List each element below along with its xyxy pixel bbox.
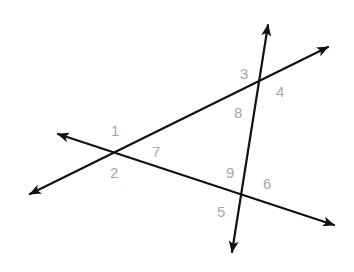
angle-diagram: 127348965 — [0, 0, 354, 272]
angle-label-1: 1 — [111, 122, 119, 139]
angle-label-5: 5 — [217, 203, 225, 220]
angle-label-2: 2 — [110, 164, 118, 181]
angle-label-8: 8 — [234, 104, 242, 121]
angle-label-4: 4 — [276, 83, 284, 100]
angle-label-6: 6 — [263, 175, 271, 192]
line-1-arrow-line — [30, 47, 328, 194]
line-2-arrow-line — [58, 134, 334, 225]
angle-label-9: 9 — [226, 164, 234, 181]
lines-group — [30, 25, 334, 252]
angle-label-3: 3 — [240, 65, 248, 82]
diagram-svg: 127348965 — [0, 0, 354, 272]
angle-label-7: 7 — [152, 143, 160, 160]
line-3-arrow-line — [232, 25, 268, 252]
